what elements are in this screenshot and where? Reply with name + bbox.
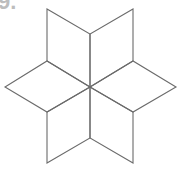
rhombus-right [90,61,176,112]
rhombus-bottom-left [47,87,90,163]
six-rhombus-star-diagram [0,0,182,187]
rhombus-top-right [90,9,133,87]
rhombus-bottom-right [90,87,133,163]
rhombus-left [5,61,90,112]
rhombus-top-left [47,9,90,87]
